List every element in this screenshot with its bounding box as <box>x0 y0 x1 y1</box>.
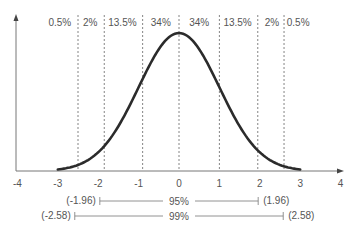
x-tick-label: -1 <box>134 178 143 189</box>
region-percent-labels: 0.5%2%13.5%34%34%13.5%2%0.5% <box>48 17 309 28</box>
region-percent-label: 34% <box>151 17 171 28</box>
sd-dashed-lines <box>78 15 284 171</box>
x-tick-label: 2 <box>257 178 263 189</box>
range-lower-label: (-1.96) <box>66 195 95 206</box>
range-upper-label: (1.96) <box>263 195 289 206</box>
region-percent-label: 2% <box>265 17 280 28</box>
range-upper-label: (2.58) <box>288 210 314 221</box>
x-tick-label: 1 <box>217 178 223 189</box>
region-percent-label: 0.5% <box>287 17 310 28</box>
region-percent-label: 34% <box>189 17 209 28</box>
confidence-ranges: 95%(-1.96)(1.96)99%(-2.58)(2.58) <box>41 195 314 222</box>
x-tick-label: -4 <box>13 178 22 189</box>
x-axis-arrow-icon <box>337 169 344 174</box>
range-percent-label: 99% <box>169 211 189 222</box>
range-lower-label: (-2.58) <box>41 210 70 221</box>
range-95pct: 95%(-1.96)(1.96) <box>66 195 289 207</box>
region-percent-label: 2% <box>83 17 98 28</box>
region-percent-label: 13.5% <box>223 17 251 28</box>
range-percent-label: 95% <box>169 196 189 207</box>
region-percent-label: 13.5% <box>108 17 136 28</box>
y-axis-arrow-icon <box>14 14 19 21</box>
normal-distribution-chart: 0.5%2%13.5%34%34%13.5%2%0.5% -4-3-2-1012… <box>0 0 357 233</box>
x-tick-label: 3 <box>297 178 303 189</box>
range-99pct: 99%(-2.58)(2.58) <box>41 210 314 222</box>
x-tick-label: 0 <box>176 178 182 189</box>
x-tick-label: -3 <box>53 178 62 189</box>
region-percent-label: 0.5% <box>48 17 71 28</box>
x-tick-label: 4 <box>338 178 344 189</box>
x-tick-labels: -4-3-2-101234 <box>13 178 344 189</box>
x-tick-label: -2 <box>94 178 103 189</box>
